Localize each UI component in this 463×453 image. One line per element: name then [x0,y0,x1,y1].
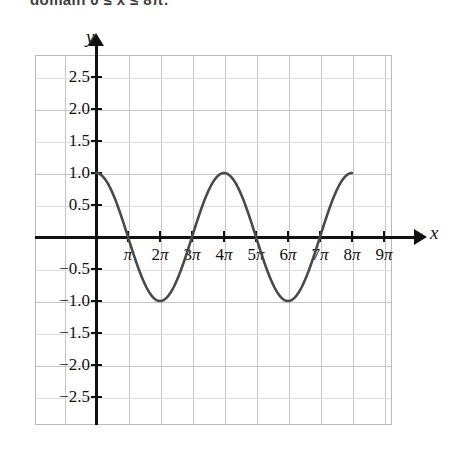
graph-figure: domain 0 ≤ x ≤ 8π. x y π2π3π4π5π6π7π8π9π… [0,0,463,453]
curve-layer [0,0,463,453]
cosine-curve [96,173,352,301]
